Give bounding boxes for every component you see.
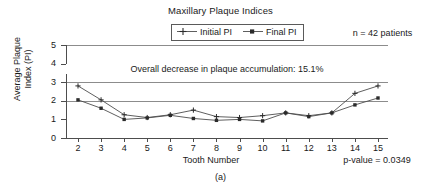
x-tick-label-13: 13 [320, 144, 344, 153]
data-point-marker [99, 107, 102, 110]
x-tick-label-8: 8 [204, 144, 228, 153]
x-tick-label-6: 6 [158, 144, 182, 153]
data-series-layer [66, 45, 388, 138]
data-point-marker [215, 119, 218, 122]
p-value-note: p-value = 0.0349 [318, 155, 436, 165]
x-tick-label-15: 15 [366, 144, 390, 153]
x-tick-7 [193, 138, 194, 142]
x-tick-15 [378, 138, 379, 142]
y-tick-label-1: 1 [34, 115, 56, 124]
data-point-marker [191, 108, 196, 113]
x-tick-5 [147, 138, 148, 142]
legend-item-final-pi[interactable]: Final PI [243, 27, 297, 38]
x-tick-6 [170, 138, 171, 142]
y-tick-label-0: 0 [34, 134, 56, 143]
x-tick-label-3: 3 [89, 144, 113, 153]
data-point-marker [375, 83, 380, 88]
data-point-marker [330, 111, 333, 114]
x-tick-label-2: 2 [66, 144, 90, 153]
x-tick-label-7: 7 [181, 144, 205, 153]
data-point-marker [122, 112, 127, 117]
x-tick-12 [309, 138, 310, 142]
data-point-marker [353, 103, 356, 106]
legend-label-final-pi: Final PI [266, 28, 297, 37]
data-point-marker [146, 116, 149, 119]
chart-title: Maxillary Plaque Indices [0, 5, 441, 16]
x-tick-label-14: 14 [343, 144, 367, 153]
y-axis-label-line2: Index (PI) [23, 10, 34, 128]
series-final-pi [76, 96, 379, 122]
x-tick-13 [332, 138, 333, 142]
y-tick-label-4: 4 [34, 59, 56, 68]
x-tick-3 [101, 138, 102, 142]
x-axis-line [66, 138, 388, 139]
square-marker-icon [243, 27, 263, 38]
x-tick-10 [263, 138, 264, 142]
x-tick-label-11: 11 [274, 144, 298, 153]
x-tick-4 [124, 138, 125, 142]
x-tick-9 [240, 138, 241, 142]
legend-label-initial-pi: Initial PI [200, 28, 232, 37]
data-point-marker [75, 83, 80, 88]
series-initial-pi [75, 83, 380, 120]
y-tick-label-3: 3 [34, 78, 56, 87]
data-point-marker [214, 114, 219, 119]
x-tick-2 [78, 138, 79, 142]
data-point-marker [261, 119, 264, 122]
x-tick-label-4: 4 [112, 144, 136, 153]
y-tick-label-5: 5 [34, 41, 56, 50]
data-point-marker [284, 111, 287, 114]
figure-caption: (a) [0, 172, 441, 182]
x-tick-11 [286, 138, 287, 142]
y-tick-label-2: 2 [34, 96, 56, 105]
x-tick-14 [355, 138, 356, 142]
data-point-marker [169, 114, 172, 117]
x-tick-label-12: 12 [297, 144, 321, 153]
legend-item-initial-pi[interactable]: Initial PI [177, 27, 232, 38]
y-tick-0 [61, 138, 66, 139]
x-axis-label: Tooth Number [96, 155, 326, 165]
data-point-marker [76, 98, 79, 101]
y-axis-label: Average Plaque Index (PI) [12, 10, 34, 128]
data-point-marker [122, 118, 125, 121]
data-point-marker [260, 113, 265, 118]
figure-panel: Maxillary Plaque Indices Initial PI Fina… [0, 0, 441, 195]
data-point-marker [238, 118, 241, 121]
x-tick-8 [216, 138, 217, 142]
x-tick-label-9: 9 [228, 144, 252, 153]
y-axis-label-line1: Average Plaque [12, 10, 23, 128]
x-tick-label-10: 10 [251, 144, 275, 153]
plot-area: 5 4 3 2 1 0 Overall decrease in plaque a… [66, 45, 388, 138]
sample-size-note: n = 42 patients [330, 28, 435, 38]
data-point-marker [192, 117, 195, 120]
chart-legend: Initial PI Final PI [171, 24, 304, 41]
data-point-marker [376, 96, 379, 99]
data-point-marker [307, 115, 310, 118]
data-point-marker [98, 97, 103, 102]
plus-marker-icon [177, 27, 197, 38]
x-tick-label-5: 5 [135, 144, 159, 153]
